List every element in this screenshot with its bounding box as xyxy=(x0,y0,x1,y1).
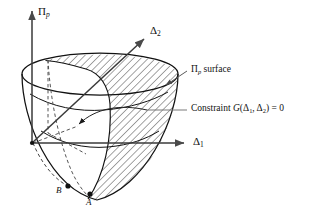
constraint-prefix: Constraint xyxy=(191,103,233,113)
delta-2-axis-label: Δ2 xyxy=(150,25,161,37)
surface-pi-symbol: Π xyxy=(191,64,198,74)
pi-p-subscript: p xyxy=(46,10,50,19)
point-a-marker xyxy=(87,191,92,196)
pi-p-symbol: Π xyxy=(38,5,46,17)
constraint-function-symbol: G xyxy=(233,103,240,113)
point-a-label: A xyxy=(86,198,92,207)
delta-2-subscript: 2 xyxy=(157,29,161,38)
constraint-annotation: Constraint G(Δ1, Δ2) = 0 xyxy=(191,104,284,114)
delta-1-axis-label: Δ1 xyxy=(193,136,204,148)
constraint-equals: = 0 xyxy=(269,103,284,113)
delta-1-subscript: 1 xyxy=(200,140,204,149)
point-b-label: B xyxy=(56,186,62,195)
surface-annotation-text: surface xyxy=(201,64,231,74)
surface-annotation: Πp surface xyxy=(191,65,231,75)
point-b-marker xyxy=(65,183,70,188)
pi-p-axis-label: Πp xyxy=(38,6,50,18)
origin-point xyxy=(30,141,34,145)
figure-canvas: Πp Δ1 Δ2 Πp surface Constraint G(Δ1, Δ2)… xyxy=(0,0,313,217)
